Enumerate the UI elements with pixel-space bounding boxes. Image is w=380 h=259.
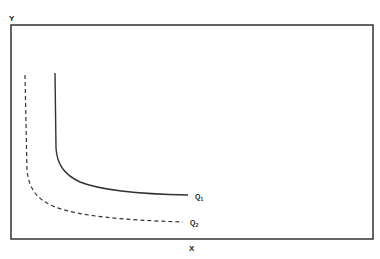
curve-q2: [25, 75, 183, 222]
plot-frame: [11, 25, 373, 239]
curve-q1: [55, 73, 188, 195]
y-axis-label: Y: [9, 14, 15, 23]
q1-label: Q1: [195, 193, 203, 202]
chart: Q1 Q2 X Y: [0, 0, 380, 259]
q2-label: Q2: [190, 219, 198, 228]
x-axis-label: X: [189, 244, 195, 253]
